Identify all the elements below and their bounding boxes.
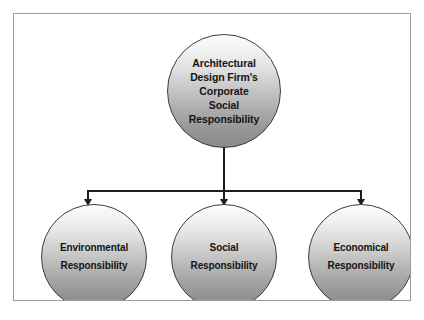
- node-csr-root-label: Architectural Design Firm's Corporate So…: [183, 56, 265, 126]
- connector-root-stem: [223, 147, 225, 192]
- node-social-label: Social Responsibility: [185, 239, 264, 276]
- node-economical[interactable]: Economical Responsibility: [308, 204, 411, 301]
- node-social[interactable]: Social Responsibility: [171, 204, 277, 301]
- node-environmental-label: Environmental Responsibility: [54, 239, 134, 276]
- node-environmental[interactable]: Environmental Responsibility: [41, 204, 147, 301]
- diagram-frame: Architectural Design Firm's Corporate So…: [13, 13, 411, 301]
- node-economical-label: Economical Responsibility: [322, 239, 401, 276]
- node-csr-root[interactable]: Architectural Design Firm's Corporate So…: [167, 34, 281, 148]
- diagram-canvas: Architectural Design Firm's Corporate So…: [0, 0, 424, 320]
